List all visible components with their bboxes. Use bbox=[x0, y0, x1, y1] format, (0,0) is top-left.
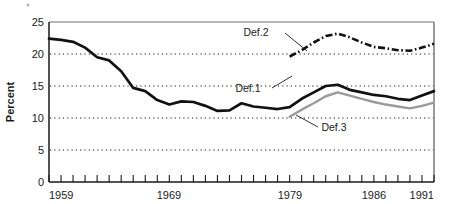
series-line-def1 bbox=[49, 39, 434, 111]
y-axis-title: Percent bbox=[4, 81, 16, 122]
line-chart-svg: 0 5 10 15 20 25 Percent 1959 1969 1979 1… bbox=[0, 0, 460, 204]
x-axis-ticks bbox=[49, 175, 434, 182]
x-tick-label-1959: 1959 bbox=[49, 189, 73, 201]
y-tick-label-25: 25 bbox=[32, 16, 44, 28]
leader-line-def1 bbox=[272, 76, 292, 88]
data-series-group bbox=[49, 34, 434, 117]
x-tick-label-1969: 1969 bbox=[157, 189, 181, 201]
scan-artifact-speck bbox=[26, 3, 29, 6]
series-label-def2: Def.2 bbox=[243, 26, 268, 38]
chart-figure: 0 5 10 15 20 25 Percent 1959 1969 1979 1… bbox=[0, 0, 460, 204]
y-tick-label-0: 0 bbox=[38, 176, 44, 188]
leader-line-def2 bbox=[285, 33, 307, 51]
x-tick-label-1986: 1986 bbox=[362, 189, 386, 201]
series-line-def3 bbox=[290, 92, 434, 116]
leader-line-def3 bbox=[296, 115, 318, 127]
y-tick-label-10: 10 bbox=[32, 112, 44, 124]
x-tick-label-1991: 1991 bbox=[410, 189, 434, 201]
y-tick-label-20: 20 bbox=[32, 48, 44, 60]
series-line-def2 bbox=[290, 34, 434, 57]
x-tick-labels: 1959 1969 1979 1986 1991 bbox=[49, 189, 434, 201]
y-tick-label-5: 5 bbox=[38, 144, 44, 156]
y-tick-label-15: 15 bbox=[32, 80, 44, 92]
x-tick-label-1979: 1979 bbox=[278, 189, 302, 201]
series-label-def3: Def.3 bbox=[321, 121, 346, 133]
y-tick-labels: 0 5 10 15 20 25 bbox=[32, 16, 44, 188]
series-label-def1: Def.1 bbox=[235, 82, 260, 94]
